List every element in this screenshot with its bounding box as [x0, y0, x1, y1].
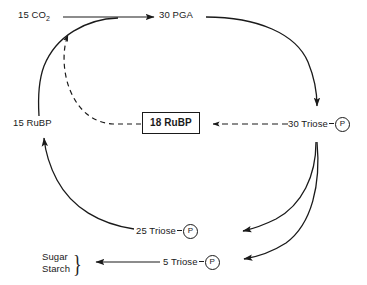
product-sugar-label: Sugar: [42, 251, 70, 263]
node-triose-25-label: 25 Triose: [136, 225, 176, 236]
node-rubp-15-label: 15 RuBP: [13, 117, 52, 128]
node-triose-5: 5 TrioseP: [163, 255, 220, 270]
edge-triose30-to-triose25: [243, 142, 316, 231]
phosphate-bond-dash: [177, 230, 182, 231]
node-co2-subscript: 2: [46, 15, 50, 22]
node-co2-label: 15 CO: [18, 9, 46, 20]
node-triose-5-label: 5 Triose: [163, 256, 198, 267]
node-rubp-18-label: 18 RuBP: [150, 117, 192, 128]
phosphate-bond-dash: [329, 123, 334, 124]
node-pga-label: 30 PGA: [159, 9, 193, 20]
edge-cycle-left-arc: [39, 18, 118, 116]
node-triose-30-label: 30 Triose: [288, 118, 328, 129]
edge-triose25-to-rubp15: [44, 138, 134, 229]
node-pga: 30 PGA: [159, 10, 193, 21]
edge-triose30-to-triose5: [244, 142, 318, 259]
edge-rubp18-to-fixation-dashed: [64, 35, 141, 124]
node-triose-30: 30 TrioseP: [288, 117, 350, 132]
diagram-canvas: [0, 0, 367, 285]
node-rubp-15: 15 RuBP: [13, 118, 52, 129]
phosphate-circle-icon: P: [335, 117, 350, 132]
phosphate-bond-dash: [199, 261, 204, 262]
calvin-cycle-diagram: 15 CO2 30 PGA 15 RuBP 18 RuBP 30 TrioseP…: [0, 0, 367, 285]
product-starch-label: Starch: [42, 263, 70, 275]
node-products: Sugar Starch }: [42, 251, 84, 275]
node-triose-25: 25 TrioseP: [136, 224, 198, 239]
phosphate-circle-icon: P: [183, 224, 198, 239]
edge-pga-to-triose30: [206, 17, 317, 106]
phosphate-circle-icon: P: [205, 255, 220, 270]
node-co2: 15 CO2: [18, 10, 50, 23]
node-rubp-18-box: 18 RuBP: [142, 112, 200, 134]
products-text: Sugar Starch: [42, 251, 70, 275]
